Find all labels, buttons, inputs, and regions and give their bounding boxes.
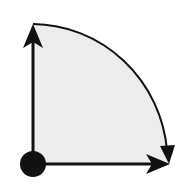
origin-point <box>20 151 46 177</box>
quarter-circle-diagram <box>0 0 177 185</box>
